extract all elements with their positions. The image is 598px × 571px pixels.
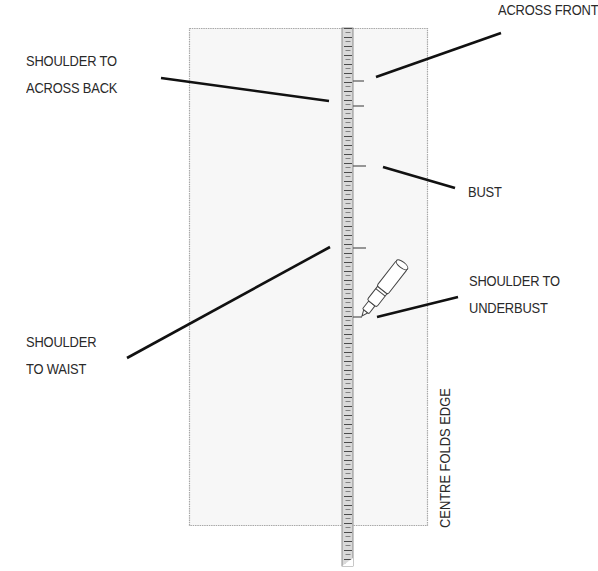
label-bust: BUST [468, 178, 502, 205]
label-line: ACROSS FRONT [498, 0, 598, 23]
label-line: ACROSS BACK [26, 74, 117, 101]
label-line: TO WAIST [26, 355, 96, 382]
label-shoulder-to-across-back: SHOULDER TO ACROSS BACK [26, 47, 117, 101]
label-line: UNDERBUST [469, 294, 560, 321]
label-line: SHOULDER [26, 328, 96, 355]
measuring-tape [342, 28, 354, 566]
label-centre-folds-edge: CENTRE FOLDS EDGE [436, 388, 453, 528]
label-line: SHOULDER TO [469, 267, 560, 294]
label-line: BUST [468, 178, 502, 205]
label-shoulder-to-waist: SHOULDER TO WAIST [26, 328, 96, 382]
label-shoulder-to-underbust: SHOULDER TO UNDERBUST [469, 267, 560, 321]
label-line: SHOULDER TO [26, 47, 117, 74]
label-across-front: ACROSS FRONT [498, 0, 598, 23]
